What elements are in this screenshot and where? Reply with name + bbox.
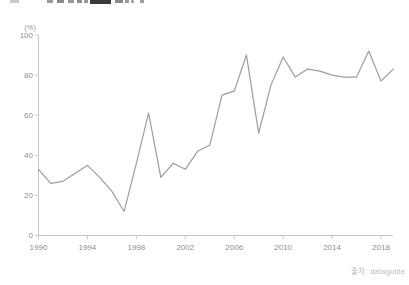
source-note: 출처: dataguide <box>351 265 405 276</box>
x-axis-tick-label: 2006 <box>225 243 243 252</box>
y-axis-tick-label: 20 <box>24 191 33 200</box>
chart-screenshot: (%) 020406080100199019941998200220062010… <box>0 0 409 285</box>
x-axis-tick-label: 1998 <box>127 243 145 252</box>
y-axis-tick-label: 40 <box>24 151 33 160</box>
line-chart: 0204060801001990199419982002200620102014… <box>0 0 409 285</box>
x-axis-tick-label: 1990 <box>30 243 48 252</box>
y-axis-tick-label: 60 <box>24 111 33 120</box>
x-axis-tick-label: 2002 <box>176 243 194 252</box>
data-line <box>39 51 394 211</box>
y-axis-tick-label: 80 <box>24 71 33 80</box>
y-axis-tick-label: 100 <box>20 31 34 40</box>
x-axis-tick-label: 2010 <box>274 243 292 252</box>
x-axis-tick-label: 2018 <box>372 243 390 252</box>
y-axis-tick-label: 0 <box>29 231 34 240</box>
x-axis-tick-label: 2014 <box>323 243 341 252</box>
x-axis-tick-label: 1994 <box>79 243 97 252</box>
